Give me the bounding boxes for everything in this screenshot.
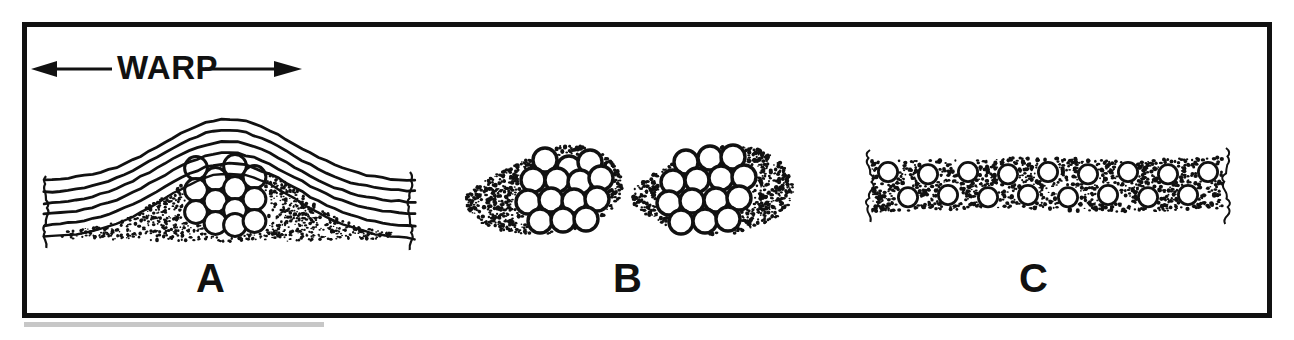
panel-c-drawing (866, 148, 1230, 224)
panel-c-fiber-row-top (878, 162, 1217, 183)
panel-label-a: A (196, 258, 225, 298)
warp-label: WARP (117, 51, 218, 84)
panel-label-c: C (1019, 258, 1048, 298)
figure-root: WARP A B C (0, 0, 1294, 340)
panel-label-b: B (613, 258, 642, 298)
panel-a-drawing (43, 119, 415, 250)
left-arrow-icon (31, 61, 112, 77)
right-arrow-icon (205, 61, 302, 77)
panel-c-fiber-row-bottom (898, 185, 1197, 206)
panel-b-drawing (465, 145, 794, 237)
panel-b-fiber-bundle-right (657, 145, 756, 234)
